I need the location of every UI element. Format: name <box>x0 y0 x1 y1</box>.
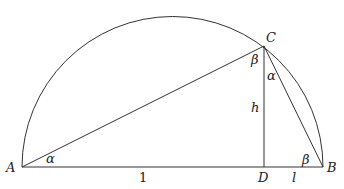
segment-CB <box>264 46 323 167</box>
angle-label-B: β <box>301 152 310 167</box>
point-label-C: C <box>266 30 276 45</box>
segment-label-AD: 1 <box>139 170 147 185</box>
angle-label-C-right: α <box>267 68 276 83</box>
point-label-B: B <box>326 160 337 175</box>
angle-label-C-left: β <box>250 52 259 67</box>
point-label-D: D <box>257 170 269 185</box>
segment-AC <box>22 46 264 167</box>
point-label-A: A <box>5 160 15 175</box>
geometry-diagram: A B C D 1 l h α β α β <box>0 0 344 189</box>
segment-label-CD: h <box>251 100 259 115</box>
segment-label-DB: l <box>292 170 296 185</box>
angle-label-A: α <box>46 151 55 166</box>
